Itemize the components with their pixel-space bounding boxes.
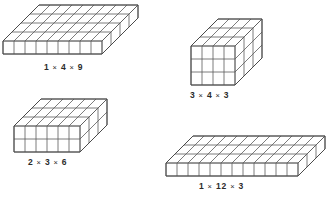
prism-figure: 1 × 4 × 93 × 4 × 32 × 3 × 61 × 12 × 3 [0, 0, 334, 201]
block-3x4x3 [191, 19, 262, 85]
block-2x3x6 [14, 99, 107, 152]
block-label-1x4x9: 1 × 4 × 9 [44, 62, 83, 72]
multiplication-sign-icon: × [51, 158, 62, 167]
multiplication-sign-icon: × [213, 91, 224, 100]
multiplication-sign-icon: × [196, 91, 207, 100]
block-label-1x12x3: 1 × 12 × 3 [199, 181, 244, 191]
multiplication-sign-icon: × [67, 63, 78, 72]
front-face [3, 41, 102, 54]
dimension-value: 9 [78, 62, 84, 72]
multiplication-sign-icon: × [227, 182, 238, 191]
block-label-2x3x6: 2 × 3 × 6 [28, 157, 67, 167]
block-label-3x4x3: 3 × 4 × 3 [190, 90, 229, 100]
block-1x4x9 [3, 5, 138, 54]
dimension-value: 12 [216, 181, 227, 191]
multiplication-sign-icon: × [50, 63, 61, 72]
dimension-value: 6 [62, 157, 68, 167]
prism-svg-canvas [0, 0, 334, 201]
block-1x12x3 [166, 136, 325, 176]
dimension-value: 3 [224, 90, 230, 100]
multiplication-sign-icon: × [205, 182, 216, 191]
multiplication-sign-icon: × [34, 158, 45, 167]
dimension-value: 3 [238, 181, 244, 191]
